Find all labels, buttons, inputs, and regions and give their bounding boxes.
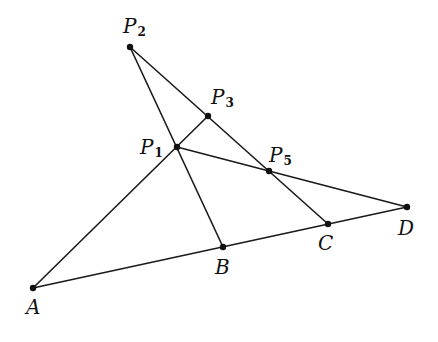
labels-group: ABCDP1P2P3P5 <box>24 14 414 319</box>
point-p1 <box>174 144 180 150</box>
segment-p1-d <box>177 147 407 207</box>
label-p5: P5 <box>268 143 292 168</box>
point-a <box>30 285 36 291</box>
segments-group <box>33 47 407 288</box>
segment-p2-c <box>130 47 328 224</box>
label-a: A <box>24 295 40 319</box>
label-p3: P3 <box>210 85 234 110</box>
label-d: D <box>397 216 414 240</box>
point-b <box>220 244 226 250</box>
segment-a-p3 <box>33 116 208 288</box>
point-c <box>325 221 331 227</box>
geometry-diagram: ABCDP1P2P3P5 <box>0 0 438 342</box>
label-c: C <box>318 231 333 255</box>
label-b: B <box>214 255 230 279</box>
label-p2: P2 <box>122 14 146 39</box>
point-d <box>404 204 410 210</box>
point-p3 <box>205 113 211 119</box>
point-p2 <box>127 44 133 50</box>
point-p5 <box>266 168 272 174</box>
label-p1: P1 <box>139 135 163 160</box>
